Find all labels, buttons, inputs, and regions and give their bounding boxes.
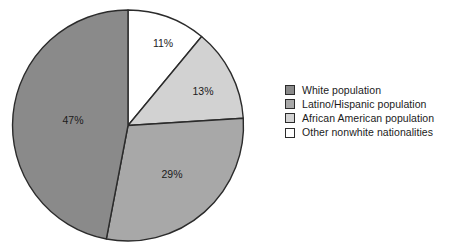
legend-item-label: Other nonwhite nationalities (302, 127, 433, 138)
chart-legend: White population Latino/Hispanic populat… (285, 83, 455, 140)
legend-item-latino-hispanic-population[interactable]: Latino/Hispanic population (285, 97, 455, 111)
pie-chart-figure: 11% 13% 29% 47% White population Latino/… (0, 0, 455, 247)
pie-slices (13, 10, 244, 241)
legend-swatch-icon (285, 113, 295, 123)
legend-item-label: White population (302, 85, 381, 96)
legend-item-label: Latino/Hispanic population (302, 99, 426, 110)
pie-slice-label-latino-hispanic-population: 29% (161, 168, 182, 180)
legend-item-other-nonwhite-nationalities[interactable]: Other nonwhite nationalities (285, 126, 455, 140)
legend-swatch-icon (285, 128, 295, 138)
legend-swatch-icon (285, 99, 295, 109)
legend-item-white-population[interactable]: White population (285, 83, 455, 97)
legend-item-label: African American population (302, 113, 434, 124)
pie-slice-label-white-population: 47% (62, 114, 83, 126)
pie-slice-label-african-american-population: 13% (192, 85, 213, 97)
legend-item-african-american-population[interactable]: African American population (285, 111, 455, 125)
legend-swatch-icon (285, 85, 295, 95)
pie-slice-label-other-nonwhite-nationalities: 11% (153, 37, 173, 49)
